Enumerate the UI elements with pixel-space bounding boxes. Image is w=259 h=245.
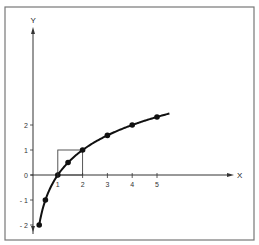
data-point xyxy=(105,133,111,139)
data-point xyxy=(129,122,135,128)
y-tick-label: 0 xyxy=(24,172,28,179)
y-axis-bottom-arrow-icon xyxy=(31,226,35,232)
y-ticks: - 2- 1012 xyxy=(20,122,33,229)
y-axis-label: Y xyxy=(31,16,37,25)
y-tick-label: - 1 xyxy=(20,197,28,204)
chart-frame xyxy=(5,7,254,240)
x-tick-label: 4 xyxy=(130,181,134,188)
series-line xyxy=(39,114,169,225)
y-tick-label: - 2 xyxy=(20,222,28,229)
x-axis-arrow-icon xyxy=(227,173,234,177)
y-tick-label: 1 xyxy=(24,147,28,154)
data-point xyxy=(43,197,49,203)
data-point xyxy=(80,147,86,153)
data-points xyxy=(36,114,159,228)
series-curve xyxy=(39,114,169,225)
axes xyxy=(31,27,234,234)
chart: X Y 12345 - 2- 1012 xyxy=(0,0,259,245)
data-point xyxy=(154,114,160,120)
x-tick-label: 1 xyxy=(56,181,60,188)
x-axis-label: X xyxy=(237,171,243,180)
x-tick-label: 2 xyxy=(81,181,85,188)
data-point xyxy=(36,222,42,228)
data-point xyxy=(65,160,71,166)
y-tick-label: 2 xyxy=(24,122,28,129)
x-tick-label: 5 xyxy=(155,181,159,188)
y-axis-arrow-icon xyxy=(31,27,35,34)
x-tick-label: 3 xyxy=(105,181,109,188)
